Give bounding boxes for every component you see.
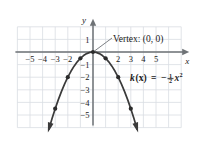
x-tick-label: −5 [25, 54, 34, 64]
y-tick-label: −3 [80, 85, 89, 95]
x-axis-arrowhead [182, 49, 189, 55]
equation-fraction-denominator: 2 [169, 77, 172, 84]
data-point [66, 75, 70, 79]
y-axis-label: y [81, 15, 86, 25]
data-point [104, 56, 108, 60]
x-tick-label: 4 [141, 54, 146, 64]
x-axis-label: x [184, 56, 189, 66]
vertex-leader-line [95, 38, 113, 51]
data-point [53, 107, 57, 111]
data-point [129, 107, 133, 111]
y-tick-label: −1 [80, 60, 89, 70]
x-tick-label: −4 [38, 54, 48, 64]
graph-canvas: −5−4−3−223451−1−2−3−4−5xyVertex: (0, 0)k… [0, 0, 203, 141]
parabola-figure: −5−4−3−223451−1−2−3−4−5xyVertex: (0, 0)k… [0, 0, 203, 141]
vertex-annotation-label: Vertex: (0, 0) [113, 34, 163, 45]
y-tick-label: −4 [80, 98, 90, 108]
x-tick-label: −2 [63, 54, 72, 64]
data-point [78, 56, 82, 60]
y-axis-arrowhead [90, 19, 96, 26]
x-tick-label: −3 [51, 54, 60, 64]
equation-minus-sign: − [161, 73, 166, 83]
equation-argument: (x) [136, 73, 147, 84]
y-tick-label: 1 [85, 35, 89, 45]
equation-function-name: k [130, 73, 135, 83]
y-tick-label: −5 [80, 110, 89, 120]
equation-annotation: k(x)=−12x2 [130, 71, 183, 84]
x-tick-label: 5 [154, 54, 158, 64]
data-point [116, 75, 120, 79]
equation-exponent: 2 [180, 71, 183, 78]
x-tick-label: 2 [116, 54, 120, 64]
x-tick-label: 3 [129, 54, 133, 64]
y-tick-label: −2 [80, 72, 89, 82]
equation-equals-sign: = [151, 73, 156, 83]
